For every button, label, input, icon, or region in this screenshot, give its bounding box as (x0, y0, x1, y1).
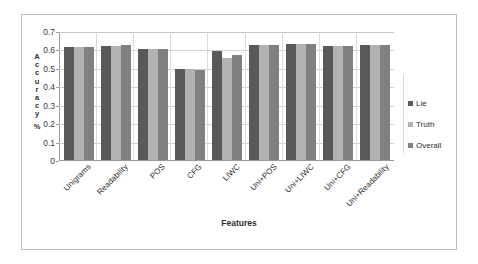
bar-lie[interactable] (138, 49, 148, 160)
bar-lie[interactable] (360, 45, 370, 160)
y-axis-tick-label: 0.1 (43, 138, 55, 147)
bar-group (171, 32, 208, 160)
bar-group (60, 32, 97, 160)
bar-group (134, 32, 171, 160)
bar-truth[interactable] (185, 69, 195, 160)
bar-truth[interactable] (74, 47, 84, 160)
bar-truth[interactable] (370, 45, 380, 160)
bar-series-container (60, 32, 394, 160)
legend-item-truth[interactable]: Truth (408, 114, 468, 135)
bar-overall[interactable] (269, 45, 279, 160)
bar-overall[interactable] (158, 49, 168, 160)
bar-lie[interactable] (286, 44, 296, 160)
bar-truth[interactable] (111, 46, 121, 160)
x-axis-tick-label: CFG (187, 163, 205, 181)
y-axis-tick-mark (56, 32, 59, 33)
bar-overall[interactable] (84, 47, 94, 160)
bar-overall[interactable] (121, 45, 131, 160)
x-axis-tick-label: Uni+CFG (324, 163, 353, 192)
y-axis-tick-label: 0.4 (43, 83, 55, 92)
legend-swatch-icon (408, 122, 413, 127)
legend-divider (403, 75, 404, 153)
y-axis-tick-mark (56, 50, 59, 51)
y-axis-tick-label: 0.6 (43, 46, 55, 55)
x-axis-title: Features (22, 218, 456, 228)
bar-truth[interactable] (333, 46, 343, 160)
bar-overall[interactable] (232, 55, 242, 160)
y-axis-tick-mark (56, 124, 59, 125)
bar-truth[interactable] (148, 49, 158, 160)
legend-label: Overall (416, 141, 441, 150)
bar-overall[interactable] (195, 70, 205, 160)
bar-truth[interactable] (296, 44, 306, 160)
y-axis-tick-label: 0.5 (43, 65, 55, 74)
y-axis-tick-label: 0.2 (43, 120, 55, 129)
bar-overall[interactable] (380, 45, 390, 160)
x-axis-line (59, 160, 394, 161)
bar-group (246, 32, 283, 160)
y-axis-title-letter: y (30, 110, 44, 118)
bar-lie[interactable] (64, 47, 74, 160)
legend-label: Truth (416, 120, 434, 129)
bar-overall[interactable] (343, 46, 353, 160)
legend-swatch-icon (408, 143, 413, 148)
bar-lie[interactable] (101, 46, 111, 160)
x-axis-tick-label: POS (149, 163, 167, 181)
bar-group (357, 32, 394, 160)
bar-group (97, 32, 134, 160)
x-axis-tick-label: Uni+POS (249, 163, 278, 192)
bar-lie[interactable] (249, 45, 259, 160)
y-axis-tick-mark (56, 161, 59, 162)
legend-label: Lie (416, 99, 427, 108)
bar-group (208, 32, 245, 160)
x-axis-tick-label: Uni+Readability (345, 163, 390, 208)
y-axis-tick-mark (56, 87, 59, 88)
y-axis-title: Accuracy% (30, 53, 44, 131)
x-axis-tick-label: Readability (96, 163, 130, 197)
bar-lie[interactable] (175, 69, 185, 160)
y-axis-tick-mark (56, 143, 59, 144)
x-axis-tick-labels: UnigramsReadabilityPOSCFGLIWCUni+POSUni+… (60, 163, 395, 223)
chart-figure-frame: Accuracy% 00.10.20.30.40.50.60.7 Unigram… (21, 14, 457, 250)
bar-lie[interactable] (323, 46, 333, 160)
y-axis-tick-label: 0.3 (43, 101, 55, 110)
bar-truth[interactable] (259, 45, 269, 160)
y-axis-tick-mark (56, 69, 59, 70)
y-axis-tick-label: 0.7 (43, 28, 55, 37)
legend-item-overall[interactable]: Overall (408, 135, 468, 156)
bar-group (283, 32, 320, 160)
x-axis-tick-label: Unigrams (63, 163, 93, 193)
bar-overall[interactable] (306, 44, 316, 160)
y-axis-tick-label: 0 (50, 157, 55, 166)
legend-swatch-icon (408, 101, 413, 106)
y-axis-tick-mark (56, 106, 59, 107)
plot-area: 00.10.20.30.40.50.60.7 (59, 32, 394, 161)
bar-lie[interactable] (212, 51, 222, 160)
x-axis-tick-label: Uni+LIWC (284, 163, 316, 195)
x-axis-tick-label: LIWC (222, 163, 242, 183)
legend-item-lie[interactable]: Lie (408, 93, 468, 114)
bar-group (320, 32, 357, 160)
chart-legend: LieTruthOverall (408, 93, 468, 156)
bar-truth[interactable] (222, 58, 232, 160)
y-axis-title-letter: % (30, 123, 44, 131)
